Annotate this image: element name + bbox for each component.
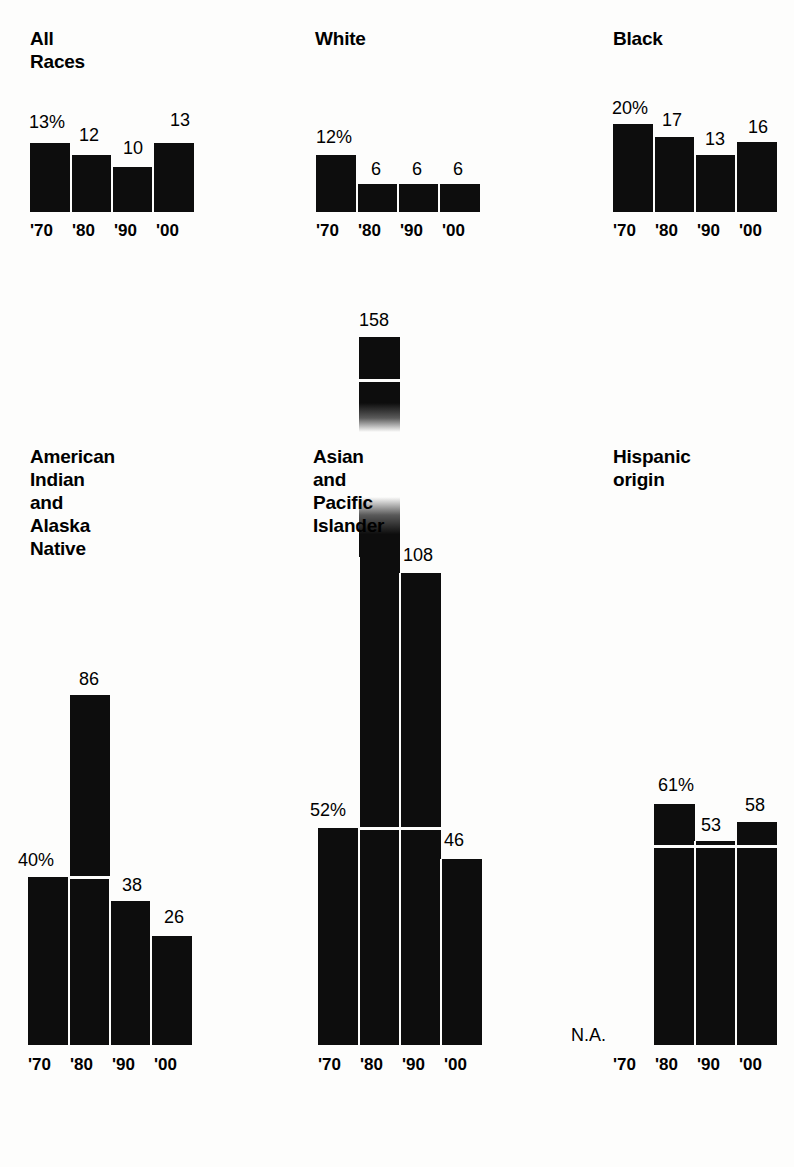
- bar-separator: [653, 124, 655, 212]
- tick-american-indian-80: '80: [70, 1056, 93, 1073]
- bar-black-80: [654, 137, 695, 212]
- panel-title-asian-pacific: Asian and Pacific Islander: [313, 445, 384, 537]
- panel-title-white: White: [315, 27, 366, 50]
- reference-line-asian-pacific: [359, 827, 441, 830]
- bar-separator: [694, 137, 696, 212]
- bar-separator: [438, 184, 440, 212]
- bar-label-white-90: 6: [412, 160, 422, 178]
- bar-white-80: [357, 184, 398, 212]
- bar-label-asian-pacific-00: 46: [444, 831, 464, 849]
- tick-american-indian-00: '00: [154, 1056, 177, 1073]
- tick-all-races-90: '90: [114, 222, 137, 239]
- bar-label-hispanic-90: 53: [701, 816, 721, 834]
- bar-asian-pacific-70: [318, 828, 359, 1045]
- bar-asian-pacific-80: [359, 557, 400, 1045]
- tick-all-races-00: '00: [156, 222, 179, 239]
- bar-american-indian-80: [69, 695, 110, 1045]
- tick-american-indian-90: '90: [112, 1056, 135, 1073]
- bar-all-races-90: [112, 167, 153, 212]
- bar-label-asian-pacific-90: 108: [403, 546, 433, 564]
- bar-separator: [68, 695, 70, 1045]
- bar-asian-pacific-80-fade-top: [359, 382, 400, 432]
- tick-white-70: '70: [316, 222, 339, 239]
- bar-separator: [358, 557, 360, 1045]
- tick-black-70: '70: [613, 222, 636, 239]
- bar-separator: [735, 142, 737, 212]
- tick-american-indian-70: '70: [28, 1056, 51, 1073]
- bar-label-black-00: 16: [748, 118, 768, 136]
- tick-black-00: '00: [739, 222, 762, 239]
- bar-asian-pacific-80-top: [359, 337, 400, 379]
- bar-separator: [109, 877, 111, 1045]
- bar-white-70: [316, 155, 357, 212]
- bar-separator: [150, 901, 152, 1045]
- reference-line-hispanic: [654, 845, 777, 848]
- bar-label-black-70: 20%: [612, 99, 648, 117]
- bar-hispanic-00: [736, 822, 777, 1045]
- panel-title-all-races: All Races: [30, 27, 85, 73]
- bar-separator: [694, 841, 696, 1045]
- bar-separator: [152, 143, 154, 212]
- bar-label-all-races-00: 13: [170, 111, 190, 129]
- bar-american-indian-70: [28, 877, 69, 1045]
- bar-label-asian-pacific-70: 52%: [310, 801, 346, 819]
- tick-hispanic-00: '00: [739, 1056, 762, 1073]
- tick-hispanic-80: '80: [655, 1056, 678, 1073]
- bar-label-all-races-90: 10: [123, 139, 143, 157]
- tick-white-00: '00: [442, 222, 465, 239]
- bar-separator: [440, 859, 442, 1045]
- bar-break-separator: [359, 379, 400, 382]
- bar-label-asian-pacific-80: 158: [359, 311, 389, 329]
- bar-hispanic-80: [654, 804, 695, 1045]
- panel-title-american-indian: American Indian and Alaska Native: [30, 445, 115, 560]
- bar-label-hispanic-80: 61%: [658, 776, 694, 794]
- bar-asian-pacific-90: [400, 573, 441, 1045]
- bar-black-70: [613, 124, 654, 212]
- tick-hispanic-90: '90: [697, 1056, 720, 1073]
- panel-title-hispanic: Hispanic origin: [613, 445, 691, 491]
- tick-asian-pacific-90: '90: [402, 1056, 425, 1073]
- bar-label-hispanic-00: 58: [745, 796, 765, 814]
- tick-asian-pacific-80: '80: [360, 1056, 383, 1073]
- bar-label-white-80: 6: [371, 160, 381, 178]
- tick-all-races-70: '70: [30, 222, 53, 239]
- bar-label-white-00: 6: [453, 160, 463, 178]
- bar-white-90: [398, 184, 439, 212]
- bar-black-00: [736, 142, 777, 212]
- tick-hispanic-70: '70: [613, 1056, 636, 1073]
- tick-white-90: '90: [400, 222, 423, 239]
- bar-all-races-00: [153, 143, 194, 212]
- panel-title-black: Black: [613, 27, 663, 50]
- reference-line-american-indian: [69, 876, 110, 879]
- bar-hispanic-90: [695, 841, 736, 1045]
- bar-separator: [111, 155, 113, 212]
- bar-label-american-indian-80: 86: [79, 670, 99, 688]
- bar-label-all-races-70: 13%: [29, 113, 65, 131]
- infographic-canvas: All Races 13% 12 10 13 '70 '80 '90 '00 W…: [0, 0, 794, 1167]
- bar-separator: [70, 143, 72, 212]
- na-label-hispanic: N.A.: [571, 1026, 606, 1044]
- bar-all-races-70: [30, 143, 71, 212]
- bar-separator: [735, 822, 737, 1045]
- bar-separator: [356, 155, 358, 212]
- bar-american-indian-00: [151, 936, 192, 1045]
- bar-white-00: [439, 184, 480, 212]
- bar-label-american-indian-70: 40%: [18, 851, 54, 869]
- tick-all-races-80: '80: [72, 222, 95, 239]
- bar-label-american-indian-90: 38: [122, 876, 142, 894]
- tick-asian-pacific-70: '70: [318, 1056, 341, 1073]
- bar-all-races-80: [71, 155, 112, 212]
- bar-separator: [397, 184, 399, 212]
- bar-separator: [399, 573, 401, 1045]
- bar-asian-pacific-00: [441, 859, 482, 1045]
- bar-label-all-races-80: 12: [79, 126, 99, 144]
- bar-black-90: [695, 155, 736, 212]
- bar-label-white-70: 12%: [316, 128, 352, 146]
- bar-label-american-indian-00: 26: [164, 908, 184, 926]
- bar-american-indian-90: [110, 901, 151, 1045]
- bar-label-black-90: 13: [705, 130, 725, 148]
- tick-black-90: '90: [697, 222, 720, 239]
- tick-black-80: '80: [655, 222, 678, 239]
- tick-white-80: '80: [358, 222, 381, 239]
- tick-asian-pacific-00: '00: [444, 1056, 467, 1073]
